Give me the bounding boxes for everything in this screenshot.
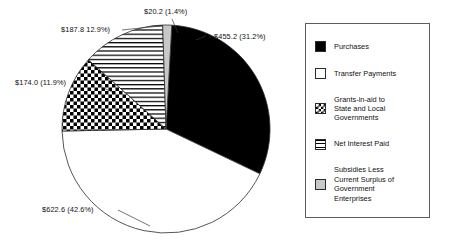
- legend-swatch-empty-white: [315, 68, 326, 79]
- pie-chart-figure: $455.2 (31.2%) $622.6 (42.6%) $174.0 (11…: [0, 0, 453, 252]
- legend-swatch-solid-black: [315, 41, 326, 52]
- legend-item[interactable]: Grants-in-aid toState and LocalGovernmen…: [315, 87, 423, 131]
- slice-callout-subsidies: $20.2 (1.4%): [144, 8, 187, 15]
- legend-item[interactable]: Net Interest Paid: [315, 131, 423, 158]
- legend-item-label: Subsidies LessCurrent Surplus ofGovernme…: [334, 165, 394, 203]
- legend-item[interactable]: Subsidies LessCurrent Surplus ofGovernme…: [315, 158, 423, 211]
- slice-callout-transfer-payments: $622.6 (42.6%): [42, 206, 94, 213]
- legend-item-list: PurchasesTransfer PaymentsGrants-in-aid …: [306, 24, 429, 217]
- legend-swatch-light-gray: [315, 179, 326, 190]
- slice-callout-purchases: $455.2 (31.2%): [214, 33, 266, 40]
- slice-callout-grants-in-aid: $174.0 (11.9%): [15, 79, 66, 86]
- legend-item-label: Grants-in-aid toState and LocalGovernmen…: [334, 95, 385, 123]
- slice-callout-net-interest-paid: $187.8 12.9%): [61, 26, 110, 33]
- legend-swatch-checkerboard: [315, 103, 326, 114]
- pie-slices-group: [62, 25, 270, 233]
- chart-legend: PurchasesTransfer PaymentsGrants-in-aid …: [305, 23, 430, 218]
- legend-item[interactable]: Purchases: [315, 33, 423, 60]
- legend-item-label: Net Interest Paid: [334, 139, 389, 148]
- legend-item[interactable]: Transfer Payments: [315, 60, 423, 87]
- legend-item-label: Purchases: [334, 42, 369, 51]
- legend-swatch-horizontal-stripes: [315, 139, 326, 150]
- legend-item-label: Transfer Payments: [334, 69, 396, 78]
